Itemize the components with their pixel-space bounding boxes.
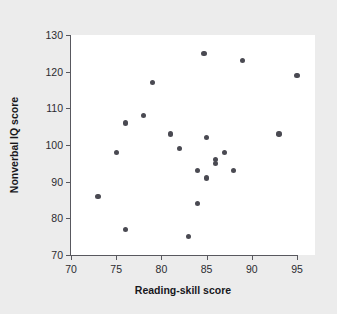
y-axis-tick-label: 80 bbox=[51, 212, 63, 224]
x-axis-tick-label: 75 bbox=[110, 263, 122, 275]
y-axis-tick-label: 130 bbox=[45, 29, 63, 41]
data-point bbox=[294, 73, 299, 78]
x-axis-tick bbox=[71, 255, 72, 260]
data-point bbox=[114, 150, 119, 155]
data-point bbox=[95, 194, 100, 199]
data-point bbox=[150, 80, 155, 85]
x-axis-tick bbox=[297, 255, 298, 260]
y-axis-tick-label: 70 bbox=[51, 249, 63, 261]
data-point bbox=[123, 120, 128, 125]
data-point bbox=[231, 168, 236, 173]
data-point bbox=[204, 135, 209, 140]
data-point bbox=[141, 113, 146, 118]
data-point bbox=[186, 234, 191, 239]
x-axis-tick-label: 70 bbox=[65, 263, 77, 275]
y-axis-tick-label: 120 bbox=[45, 66, 63, 78]
data-point bbox=[195, 201, 200, 206]
data-point bbox=[213, 161, 218, 166]
x-axis-tick-label: 90 bbox=[246, 263, 258, 275]
data-point bbox=[222, 150, 227, 155]
data-point bbox=[276, 131, 281, 136]
x-axis-tick bbox=[252, 255, 253, 260]
scatter-plot-figure: 708090100110120130707580859095 Nonverbal… bbox=[0, 0, 337, 314]
plot-area: 708090100110120130707580859095 bbox=[70, 35, 297, 256]
data-point bbox=[168, 131, 173, 136]
data-point bbox=[201, 51, 206, 56]
x-axis-tick-label: 85 bbox=[201, 263, 213, 275]
x-axis-tick bbox=[161, 255, 162, 260]
x-axis-tick-label: 95 bbox=[291, 263, 303, 275]
data-point bbox=[204, 175, 209, 180]
y-axis-tick bbox=[66, 35, 71, 36]
y-axis-tick-label: 110 bbox=[46, 102, 63, 114]
x-axis-tick bbox=[207, 255, 208, 260]
data-point bbox=[195, 168, 200, 173]
x-axis-tick-label: 80 bbox=[156, 263, 168, 275]
y-axis-tick bbox=[66, 108, 71, 109]
x-axis-tick bbox=[116, 255, 117, 260]
data-point bbox=[240, 58, 245, 63]
data-point bbox=[177, 146, 182, 151]
data-point bbox=[123, 227, 128, 232]
y-axis-tick bbox=[66, 145, 71, 146]
y-axis-tick bbox=[66, 72, 71, 73]
x-axis-title: Reading-skill score bbox=[70, 284, 296, 296]
y-axis-tick-label: 90 bbox=[51, 176, 63, 188]
y-axis-tick bbox=[66, 218, 71, 219]
y-axis-title: Nonverbal IQ score bbox=[8, 97, 20, 193]
y-axis-tick-label: 100 bbox=[45, 139, 63, 151]
y-axis-tick bbox=[66, 182, 71, 183]
